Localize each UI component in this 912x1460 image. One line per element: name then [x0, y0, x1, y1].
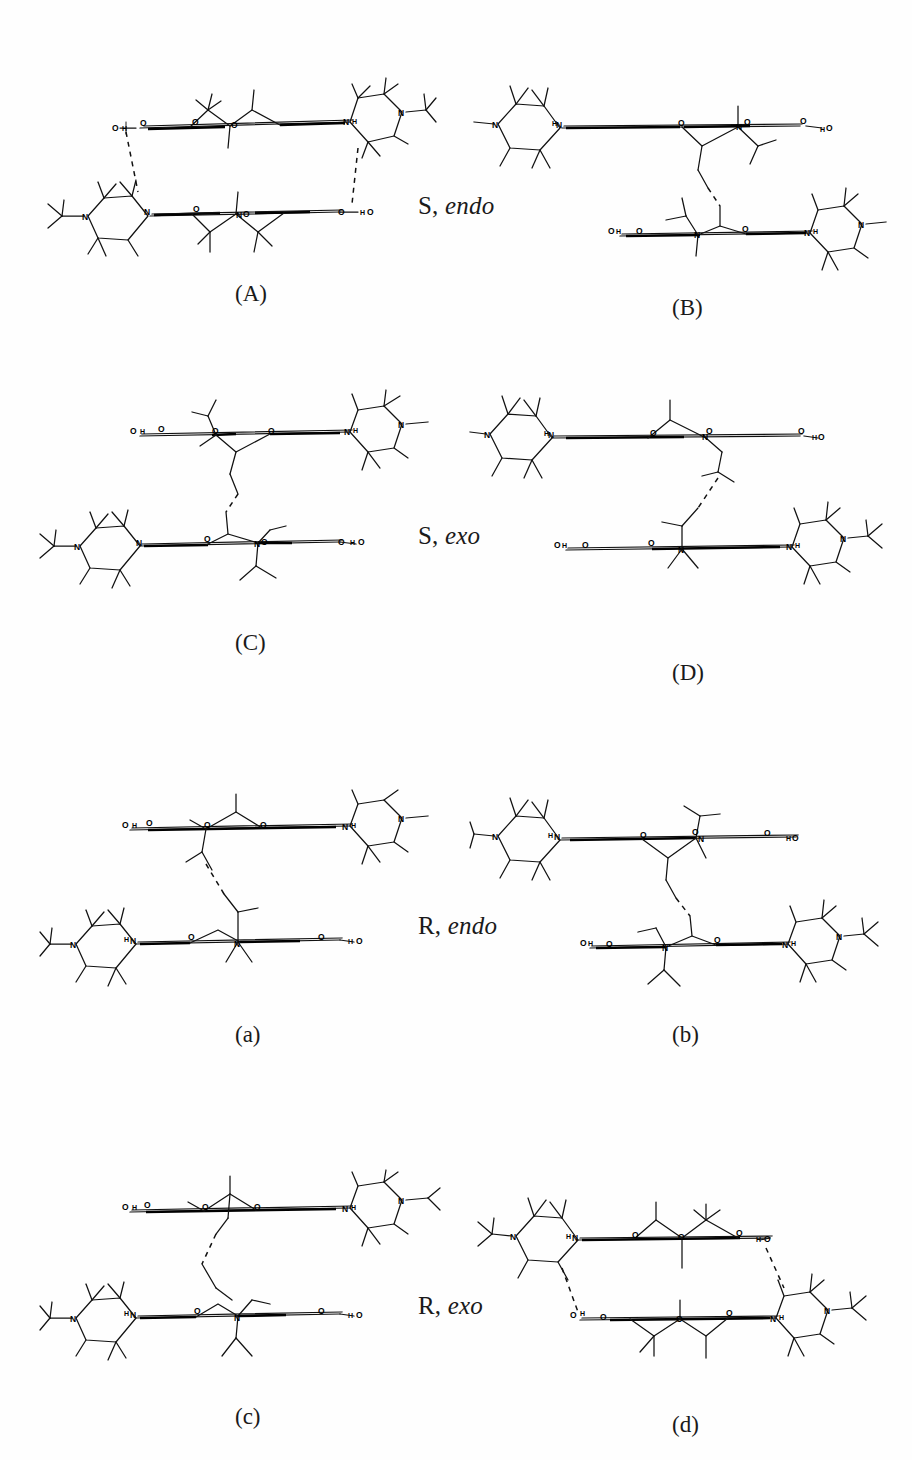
lower-molecule-A: O N O O H O N N: [48, 180, 374, 256]
atom-label-H: H: [813, 228, 818, 235]
lower-molecule-a: N H O N O H O N: [40, 908, 363, 986]
atom-label-O: O: [130, 426, 137, 436]
atom-label-N: N: [342, 822, 348, 832]
atom-label-O: O: [678, 1232, 685, 1242]
atom-label-N: N: [484, 430, 490, 440]
piperidine-ring-lower-d: N: [776, 1274, 866, 1356]
atom-label-O: O: [798, 426, 805, 436]
atom-label-N: N: [736, 122, 742, 132]
atom-label-N: N: [70, 1314, 76, 1324]
atom-label-N: N: [702, 432, 708, 442]
atom-label-H: H: [588, 940, 593, 947]
atom-label-O: O: [554, 540, 561, 550]
upper-molecule-a: O H O O O N H N: [122, 790, 428, 864]
atom-label-N: N: [840, 534, 846, 544]
molecule-panel-a: O H O O O N H N: [40, 790, 440, 995]
atom-label-O: O: [648, 538, 655, 548]
atom-label-O: O: [582, 540, 589, 550]
atom-label-O: O: [570, 1310, 577, 1320]
atom-label-O: O: [764, 828, 771, 838]
atom-label-N: N: [70, 940, 76, 950]
atom-label-N: N: [836, 932, 842, 942]
atom-label-N: N: [804, 228, 810, 238]
atom-label-O: O: [261, 537, 268, 547]
atom-label-O: O: [676, 1314, 683, 1324]
lower-molecule-D: O H O N O N H N: [554, 502, 882, 584]
atom-label-O: O: [193, 204, 200, 214]
upper-molecule-C: O H O O O N H N: [130, 390, 428, 470]
atom-label-O: O: [254, 1202, 261, 1212]
upper-molecule-A: O H O O O N H N: [112, 78, 436, 158]
atom-label-N: N: [492, 832, 498, 842]
atom-label-N: N: [344, 427, 350, 437]
molecule-panel-c: O H O O O N H N: [40, 1170, 440, 1375]
hydrogen-bond: [698, 478, 718, 508]
piperidine-ring-upper-c: N: [350, 1170, 440, 1246]
hydrogen-bond: [676, 898, 690, 916]
molecule-panel-D: N H O O N O H O N: [470, 390, 890, 590]
atom-label-H: H: [616, 228, 621, 235]
atom-label-O: O: [356, 936, 363, 946]
atom-label-O: O: [818, 432, 825, 442]
molecule-panel-d: N H O O O H O N: [470, 1170, 890, 1375]
hydrogen-bond: [708, 188, 720, 206]
atom-label-O: O: [640, 830, 647, 840]
atom-label-N: N: [343, 117, 349, 127]
atom-label-O: O: [632, 1230, 639, 1240]
atom-label-O: O: [636, 226, 643, 236]
alkyl-linker-b: [666, 858, 692, 936]
atom-label-N: N: [492, 120, 498, 130]
atom-label-N: N: [398, 1196, 404, 1206]
molecule-panel-C: O H O O O N H N: [40, 390, 440, 590]
piperidine-ring-lower-a: N: [40, 908, 136, 986]
panel-caption-d: (d): [672, 1412, 699, 1438]
atom-label-O: O: [650, 428, 657, 438]
structure-C: O H O O O N H N: [40, 390, 440, 595]
atom-label-O: O: [367, 207, 374, 217]
atom-label-O: O: [736, 1228, 743, 1238]
atom-label-O: O: [338, 207, 345, 217]
lower-molecule-C: N O N O O H O N: [40, 510, 365, 588]
atom-label-O: O: [204, 820, 211, 830]
panel-caption-D: (D): [672, 660, 704, 686]
atom-label-N: N: [694, 230, 700, 240]
upper-molecule-d: N H O O O H O N: [478, 1198, 772, 1280]
alkyl-linker-C: [226, 452, 238, 534]
alkyl-linker-a: [186, 829, 258, 912]
atom-label-O: O: [122, 820, 129, 830]
piperidine-ring-lower-c: N: [40, 1282, 136, 1360]
atom-label-O: O: [268, 426, 275, 436]
atom-label-N: N: [858, 220, 864, 230]
upper-molecule-c: O H O O O N H N: [122, 1170, 440, 1246]
structure-D: N H O O N O H O N: [470, 390, 890, 595]
piperidine-ring-upper-A: N: [350, 78, 436, 158]
atom-label-O: O: [318, 932, 325, 942]
structure-a: O H O O O N H N: [40, 790, 440, 1000]
alkyl-linker-D: [662, 452, 734, 526]
atom-label-N: N: [254, 539, 260, 549]
lower-molecule-d: O H O O O N H N: [570, 1274, 866, 1358]
lower-molecule-B: O H O N O N H N: [608, 188, 886, 270]
atom-label-H: H: [124, 1310, 129, 1317]
atom-label-N: N: [510, 1232, 516, 1242]
hydrogen-bond: [226, 494, 238, 512]
atom-label-N: N: [234, 939, 240, 949]
upper-molecule-D: N H O O N O H O N: [470, 396, 825, 478]
atom-label-O: O: [726, 1308, 733, 1318]
upper-molecule-B: N H O N O O H O N: [474, 86, 833, 168]
hydrogen-bond: [202, 1234, 216, 1264]
panel-caption-B: (B): [672, 295, 703, 321]
atom-label-H: H: [360, 209, 365, 216]
hydrogen-bond: [352, 148, 358, 204]
structure-B: N H O N O O H O N: [470, 70, 890, 285]
atom-label-O: O: [144, 1200, 151, 1210]
atom-label-N: N: [398, 814, 404, 824]
piperidine-ring-lower-b: N: [788, 900, 878, 982]
atom-label-N: N: [678, 545, 684, 555]
atom-label-N: N: [342, 1204, 348, 1214]
atom-label-O: O: [358, 537, 365, 547]
atom-label-H: H: [122, 125, 127, 132]
atom-label-O: O: [204, 534, 211, 544]
panel-caption-c: (c): [235, 1404, 261, 1430]
atom-label-H: H: [791, 940, 796, 947]
